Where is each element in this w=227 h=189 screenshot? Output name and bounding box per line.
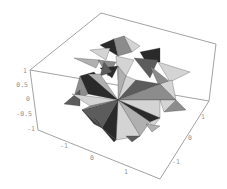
y-tick: 0 — [188, 134, 192, 142]
z-tick: -1 — [27, 125, 35, 133]
z-tick: 0.5 — [16, 81, 28, 89]
z-tick: 0 — [26, 95, 30, 103]
y-tick: -1 — [172, 158, 180, 166]
x-tick: 1 — [124, 168, 128, 176]
z-axis-ticks: 1 0.5 0 -0.5 -1 — [16, 67, 35, 133]
z-tick: 1 — [23, 67, 27, 75]
x-axis-ticks: -1 0 1 — [60, 142, 128, 176]
polyhedron — [64, 36, 190, 142]
box-right-vertical — [209, 44, 216, 101]
y-axis-ticks: -1 0 1 — [172, 113, 205, 166]
x-tick: -1 — [60, 142, 68, 150]
box-left-vertical — [30, 70, 38, 130]
polyhedron-plot: 1 0.5 0 -0.5 -1 -1 0 1 -1 0 1 — [0, 0, 227, 189]
box-bottom-front-left — [38, 130, 160, 179]
z-tick: -0.5 — [16, 110, 32, 118]
y-tick: 1 — [201, 113, 205, 121]
x-tick: 0 — [90, 154, 94, 162]
